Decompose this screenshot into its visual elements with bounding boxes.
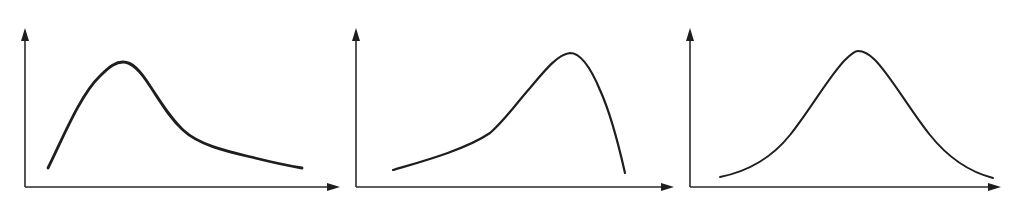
distribution-curve xyxy=(393,53,625,173)
x-axis-arrow-icon xyxy=(988,183,1001,191)
x-axis-arrow-icon xyxy=(327,183,340,191)
y-axis-arrow-icon xyxy=(21,28,29,41)
panel-negative-skew xyxy=(352,28,674,191)
panel-positive-skew xyxy=(21,28,340,191)
panel-symmetric xyxy=(686,28,1001,191)
x-axis-arrow-icon xyxy=(661,183,674,191)
distribution-curve xyxy=(720,51,993,178)
diagram-canvas xyxy=(0,0,1017,224)
distribution-shapes-diagram xyxy=(0,0,1017,224)
y-axis-arrow-icon xyxy=(352,28,360,41)
y-axis-arrow-icon xyxy=(686,28,694,41)
distribution-curve xyxy=(48,62,302,168)
